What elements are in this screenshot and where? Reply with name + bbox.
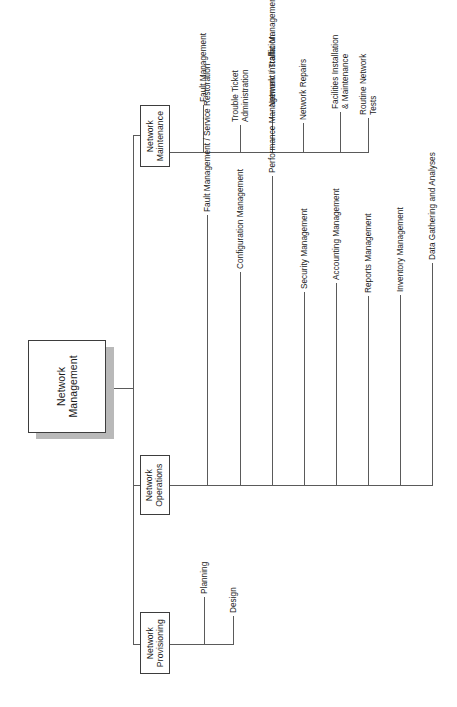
leaf-label-data-gathering-and-analyses[interactable]: Data Gathering and Analyses xyxy=(428,152,438,260)
provisioning-child-rail xyxy=(170,644,233,645)
leaf-text-line2: Tests xyxy=(369,54,379,115)
leaf-label-network-repairs[interactable]: Network Repairs xyxy=(299,59,309,120)
operations-riser-1 xyxy=(207,215,208,486)
leaf-text: Inventory Management xyxy=(396,207,406,292)
leaf-label-facilities-installation-maintenance[interactable]: Facilities Installation & Maintenance xyxy=(331,35,352,109)
leaf-text: Network Repairs xyxy=(299,59,309,120)
branch-label-line2: Provisioning xyxy=(155,619,165,667)
leaf-label-performance-management-traffic-management[interactable]: Performance Management / Traffic Managem… xyxy=(268,0,278,173)
branch-node-network-operations[interactable]: Network Operations xyxy=(140,455,170,515)
branch-node-network-provisioning-label: Network Provisioning xyxy=(145,619,165,667)
leaf-text-line1: Trouble Ticket xyxy=(231,69,241,122)
leaf-label-reports-management[interactable]: Reports Management xyxy=(364,213,374,293)
branch-label-line2: Maintenance xyxy=(155,111,165,161)
branch-node-network-operations-label: Network Operations xyxy=(145,463,165,506)
leaf-label-accounting-management[interactable]: Accounting Management xyxy=(332,188,342,280)
root-node-label: Network Management xyxy=(55,355,80,417)
maintenance-riser-2 xyxy=(240,125,241,153)
operations-riser-2 xyxy=(240,272,241,486)
leaf-label-security-management[interactable]: Security Management xyxy=(300,208,310,289)
operations-riser-5 xyxy=(336,283,337,486)
leaf-text: Fault Management / Service Restoration xyxy=(203,64,213,212)
branch-label-line2: Operations xyxy=(155,463,165,506)
leaf-label-trouble-ticket-administration[interactable]: Trouble Ticket Administration xyxy=(231,69,252,122)
leaf-text: Accounting Management xyxy=(332,188,342,280)
branch-label-line1: Network xyxy=(145,619,155,667)
leaf-text: Security Management xyxy=(300,208,310,289)
branch-label-line1: Network xyxy=(145,111,155,161)
leaf-label-planning[interactable]: Planning xyxy=(200,562,210,594)
provisioning-riser-2 xyxy=(233,616,234,645)
operations-riser-6 xyxy=(368,296,369,486)
leaf-text-line1: Routine Network xyxy=(359,54,369,115)
root-node-label-line2: Management xyxy=(67,355,79,417)
leaf-label-inventory-management[interactable]: Inventory Management xyxy=(396,207,406,292)
leaf-text-line2: Administration xyxy=(241,69,251,122)
leaf-text: Planning xyxy=(200,562,210,594)
leaf-text: Data Gathering and Analyses xyxy=(428,152,438,260)
leaf-label-routine-network-tests[interactable]: Routine Network Tests xyxy=(359,54,380,115)
leaf-label-configuration-management[interactable]: Configuration Management xyxy=(236,169,246,269)
operations-riser-7 xyxy=(400,295,401,486)
leaf-text: Configuration Management xyxy=(236,169,246,269)
operations-riser-4 xyxy=(304,292,305,486)
maintenance-riser-4 xyxy=(303,123,304,153)
leaf-label-design[interactable]: Design xyxy=(229,587,239,613)
root-node-label-line1: Network xyxy=(55,355,67,417)
leaf-text: Reports Management xyxy=(364,213,374,293)
leaf-label-fault-management-service-restoration[interactable]: Fault Management / Service Restoration xyxy=(203,64,213,212)
branch-node-network-maintenance[interactable]: Network Maintenance xyxy=(140,105,170,167)
maintenance-riser-6 xyxy=(368,118,369,153)
maintenance-riser-5 xyxy=(340,112,341,153)
leaf-text-line2: & Maintenance xyxy=(341,35,351,109)
leaf-text: Design xyxy=(229,587,239,613)
leaf-text-line1: Facilities Installation xyxy=(331,35,341,109)
root-node-network-management[interactable]: Network Management xyxy=(28,340,106,433)
operations-child-rail xyxy=(170,485,432,486)
branch-node-network-maintenance-label: Network Maintenance xyxy=(145,111,165,161)
main-trunk-line xyxy=(133,135,134,645)
operations-riser-3 xyxy=(272,176,273,486)
branch-node-network-provisioning[interactable]: Network Provisioning xyxy=(140,612,170,674)
diagram-canvas: Network Management Network Maintenance F… xyxy=(0,0,457,707)
provisioning-riser-1 xyxy=(204,597,205,645)
leaf-text: Performance Management / Traffic Managem… xyxy=(268,0,278,173)
operations-riser-8 xyxy=(432,263,433,486)
branch-label-line1: Network xyxy=(145,463,155,506)
